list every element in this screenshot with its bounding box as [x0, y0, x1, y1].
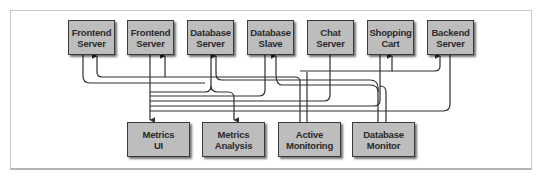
node-label: Chat Server: [316, 27, 344, 49]
node-frontend-server-2: Frontend Server: [127, 20, 174, 55]
edge-frontend1-metrics: [83, 55, 205, 83]
node-active-monitoring: Active Monitoring: [278, 122, 341, 157]
node-shopping-cart: Shopping Cart: [367, 20, 414, 55]
node-frontend-server-1: Frontend Server: [68, 20, 115, 55]
node-database-slave: Database Slave: [247, 20, 294, 55]
edge-dbslave-metrics: [150, 55, 265, 96]
edge-dbmon-dbserver: [216, 56, 378, 122]
node-label: Shopping Cart: [369, 27, 411, 49]
node-label: Active Monitoring: [286, 129, 333, 151]
node-label: Backend Server: [431, 27, 469, 49]
node-label: Metrics Analysis: [215, 129, 252, 151]
edge-dbserver-metrics: [150, 55, 211, 92]
node-database-monitor: Database Monitor: [352, 122, 415, 157]
node-label: Database Slave: [250, 27, 291, 49]
node-backend-server: Backend Server: [427, 20, 474, 55]
edge-activemon-backend: [392, 56, 440, 71]
node-label: Frontend Server: [72, 27, 112, 49]
node-chat-server: Chat Server: [307, 20, 354, 55]
edge-dbserver-analysis: [211, 86, 234, 120]
edge-chat-metrics: [150, 55, 330, 101]
node-database-server: Database Server: [187, 20, 234, 55]
edge-activemon-frontend1: [97, 56, 300, 122]
node-metrics-ui: Metrics UI: [127, 122, 190, 157]
node-label: Metrics UI: [143, 129, 175, 151]
node-label: Database Server: [190, 27, 231, 49]
node-label: Frontend Server: [131, 27, 171, 49]
node-metrics-analysis: Metrics Analysis: [202, 122, 265, 157]
edge-dbmon-dbslave: [276, 56, 378, 92]
edge-dbmon-riser: [380, 86, 386, 122]
edge-activemon-cart: [300, 56, 392, 71]
node-label: Database Monitor: [363, 129, 404, 151]
